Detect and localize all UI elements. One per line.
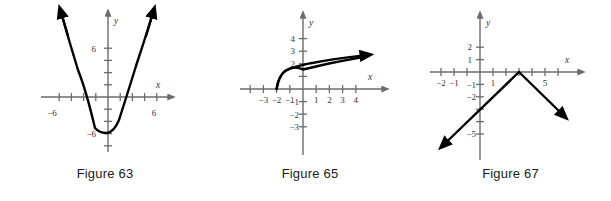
figure-67-ytick--2: −2	[466, 92, 476, 102]
figure-63-ytick--6: −6	[86, 129, 96, 139]
figure-67-ytick-2: 2	[468, 42, 473, 52]
figure-65-ytick-2: 2	[291, 59, 296, 69]
figure-67-ytick-1: 1	[468, 55, 473, 65]
figure-67-x-axis-label: x	[564, 55, 570, 65]
figure-67-svg: −2 −1 1 5 2 1 −1 −2 −5 x y	[410, 0, 611, 166]
figure-63-y-axis-label: y	[113, 16, 119, 26]
figure-65-y-axis-label: y	[308, 18, 314, 28]
figure-67: −2 −1 1 5 2 1 −1 −2 −5 x y Figure 67	[410, 0, 611, 201]
figure-67-xtick-1: 1	[491, 78, 496, 88]
figure-63-left-arrow	[62, 16, 68, 36]
figure-67-plot: −2 −1 1 5 2 1 −1 −2 −5 x y	[410, 0, 611, 166]
figure-63-xtick--6: −6	[47, 108, 57, 118]
figure-67-xtick-5: 5	[543, 78, 548, 88]
figure-65-ytick--2: −2	[289, 110, 299, 120]
figure-65-plot: −3 −2 −1 1 2 3 4 4 3 2 −1 −2 −3 x y	[210, 0, 410, 166]
figure-65-xtick-1: 1	[314, 95, 319, 105]
figure-67-y-axis-label: y	[485, 18, 491, 28]
figure-67-ytick--5: −5	[466, 129, 476, 139]
figure-65-xtick--3: −3	[259, 95, 269, 105]
figure-65-xtick-3: 3	[340, 95, 345, 105]
figure-65: −3 −2 −1 1 2 3 4 4 3 2 −1 −2 −3 x y Figu…	[210, 0, 410, 201]
figure-63-plot: −6 6 6 −6 x y	[0, 0, 210, 166]
figure-63-parabola	[62, 16, 152, 133]
figure-63: −6 6 6 −6 x y Figure 63	[0, 0, 210, 201]
figure-67-right-ray	[519, 72, 560, 112]
figure-65-xtick-4: 4	[354, 95, 359, 105]
figure-65-xtick-2: 2	[327, 95, 332, 105]
figure-63-ytick-6: 6	[92, 44, 97, 54]
figure-65-ytick-4: 4	[291, 34, 296, 44]
figure-63-x-axis-label: x	[155, 80, 161, 90]
figure-63-svg: −6 6 6 −6 x y	[0, 0, 210, 166]
figure-67-ytick--1: −1	[466, 80, 476, 90]
figure-65-caption: Figure 65	[210, 166, 410, 181]
figure-63-xtick-6: 6	[152, 108, 157, 118]
figure-65-ytick-3: 3	[291, 46, 296, 56]
figure-67-xtick--1: −1	[449, 78, 459, 88]
figure-65-svg: −3 −2 −1 1 2 3 4 4 3 2 −1 −2 −3 x y	[210, 0, 410, 166]
figure-65-ytick--3: −3	[289, 122, 299, 132]
figures-sheet: −6 6 6 −6 x y Figure 63	[0, 0, 611, 201]
figure-63-caption: Figure 63	[0, 166, 210, 181]
figure-65-ytick--1: −1	[289, 97, 299, 107]
figure-65-xtick--2: −2	[272, 95, 282, 105]
figure-63-right-arrow	[146, 16, 152, 36]
figure-67-xtick--2: −2	[436, 78, 446, 88]
figure-65-x-axis-label: x	[367, 72, 373, 82]
figure-67-caption: Figure 67	[410, 166, 611, 181]
